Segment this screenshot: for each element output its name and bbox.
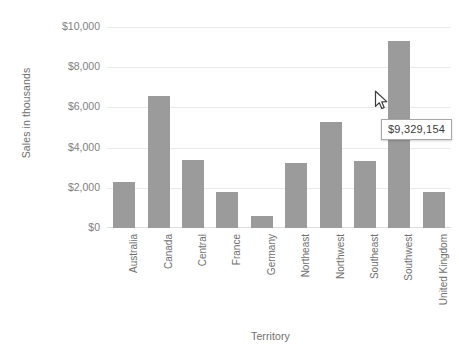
y-axis-tick-label: $4,000 [38, 141, 100, 153]
bar[interactable] [423, 192, 445, 228]
x-axis-tick-label: Germany [266, 234, 277, 275]
gridline [107, 27, 451, 28]
bar[interactable] [251, 216, 273, 228]
bar[interactable] [285, 163, 307, 228]
bar[interactable] [148, 96, 170, 228]
x-axis-tick-label: Canada [163, 234, 174, 269]
x-axis-tick-label: Southwest [403, 234, 414, 281]
arrow-pointer-icon [374, 90, 390, 112]
x-axis-tick-label: Southeast [369, 234, 380, 279]
y-axis-tick-label: $8,000 [38, 60, 100, 72]
bar[interactable] [216, 192, 238, 228]
x-axis-tick-labels: AustraliaCanadaCentralFranceGermanyNorth… [107, 228, 451, 328]
y-axis-tick-label: $6,000 [38, 100, 100, 112]
y-axis-tick-labels: $10,000$8,000$6,000$4,000$2,000$0 [38, 0, 100, 355]
bar[interactable] [320, 122, 342, 228]
value-tooltip: $9,329,154 [381, 119, 452, 140]
bar[interactable] [182, 160, 204, 228]
x-axis-tick-label: United Kingdom [438, 234, 449, 305]
x-axis-tick-label: Northeast [300, 234, 311, 277]
x-axis-tick-label: France [231, 234, 242, 265]
x-axis-tick-label: Central [197, 234, 208, 266]
y-axis-tick-label: $10,000 [38, 20, 100, 32]
y-axis-tick-label: $2,000 [38, 181, 100, 193]
x-axis-tick-label: Australia [128, 234, 139, 273]
x-axis-title-text: Territory [169, 330, 290, 342]
y-axis-title: Sales in thousands [20, 53, 32, 173]
y-axis-tick-label: $0 [38, 221, 100, 233]
bar[interactable] [113, 182, 135, 228]
bar[interactable] [354, 161, 376, 228]
x-axis-title: Territory [0, 330, 459, 342]
bar-chart: Sales in thousands $10,000$8,000$6,000$4… [0, 0, 459, 355]
x-axis-tick-label: Northwest [335, 234, 346, 279]
